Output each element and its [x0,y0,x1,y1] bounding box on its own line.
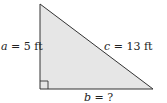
right-triangle-diagram: a = 5 ft c = 13 ft b = ? [0,0,167,103]
side-c-label: c = 13 ft [104,40,153,53]
side-b-label: b = ? [84,91,113,103]
side-a-label: a = 5 ft [1,40,43,53]
